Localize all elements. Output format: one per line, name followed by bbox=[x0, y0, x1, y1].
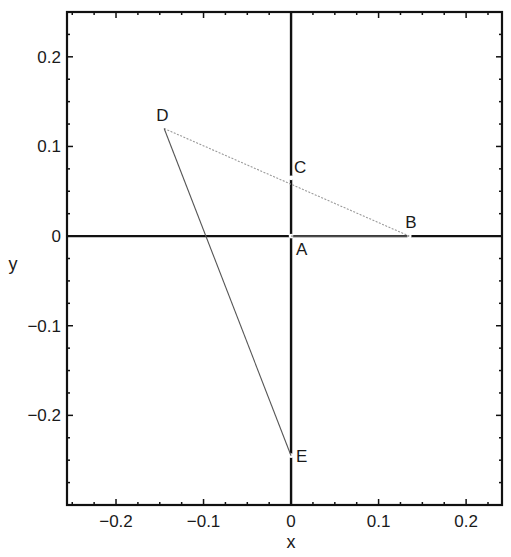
x-tick-label: 0.1 bbox=[367, 512, 391, 531]
point-label-d: D bbox=[156, 106, 168, 125]
y-tick-labels: 0.20.10−0.1−0.2 bbox=[27, 48, 61, 426]
point-label-a: A bbox=[296, 240, 308, 259]
x-tick-label: 0 bbox=[286, 512, 295, 531]
x-tick-label: −0.2 bbox=[99, 512, 133, 531]
segment-de bbox=[164, 129, 291, 456]
x-tick-labels: −0.2−0.100.10.2 bbox=[99, 512, 478, 531]
plot-border bbox=[67, 12, 502, 505]
point-labels: ABCDE bbox=[156, 106, 416, 466]
x-tick-label: 0.2 bbox=[454, 512, 478, 531]
segment-db bbox=[164, 129, 409, 237]
y-tick-label: −0.1 bbox=[27, 317, 61, 336]
plot-frame bbox=[67, 12, 502, 505]
chart: −0.2−0.100.10.2 0.20.10−0.1−0.2 ABCDE x … bbox=[0, 0, 511, 557]
y-tick-label: 0 bbox=[52, 227, 61, 246]
y-tick-label: 0.2 bbox=[37, 48, 61, 67]
point-label-e: E bbox=[296, 447, 307, 466]
x-axis-title: x bbox=[287, 532, 296, 552]
y-tick-label: −0.2 bbox=[27, 406, 61, 425]
reference-lines bbox=[67, 12, 502, 505]
minor-ticks bbox=[67, 12, 502, 505]
point-label-c: C bbox=[294, 158, 306, 177]
y-axis-title: y bbox=[9, 254, 18, 274]
x-tick-label: −0.1 bbox=[187, 512, 221, 531]
triangle-segments bbox=[164, 129, 409, 456]
y-tick-label: 0.1 bbox=[37, 137, 61, 156]
point-label-b: B bbox=[405, 213, 416, 232]
point-c-marker bbox=[289, 175, 294, 180]
